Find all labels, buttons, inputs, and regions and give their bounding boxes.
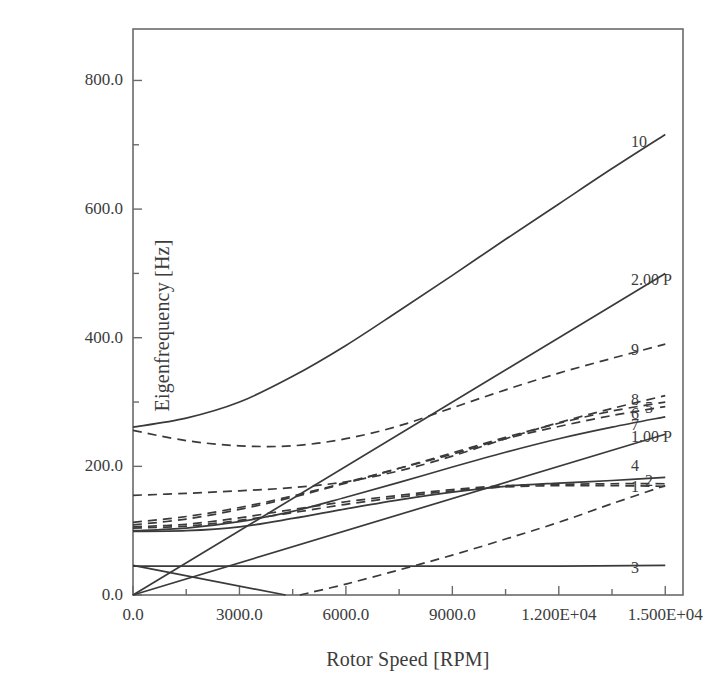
y-tick-label: 0.0 (31, 585, 123, 605)
x-tick-label: 0.0 (122, 605, 143, 625)
x-tick-label: 1.500E+04 (628, 605, 703, 625)
y-tick-label: 600.0 (31, 199, 123, 219)
x-tick-label: 1.200E+04 (521, 605, 596, 625)
curve-label-10: 10 (631, 133, 647, 151)
campbell-diagram-figure: 0.0200.0400.0600.0800.0 0.03000.06000.09… (0, 0, 723, 695)
x-axis-title: Rotor Speed [RPM] (133, 648, 683, 671)
curve-label-2: 2 (645, 472, 653, 490)
x-tick-label: 9000.0 (429, 605, 476, 625)
curve-label-4: 4 (631, 457, 639, 475)
curve-label-1: 1 (631, 478, 639, 496)
x-tick-label: 6000.0 (323, 605, 370, 625)
curve-label-5: 5 (645, 399, 653, 417)
curve-lines (133, 134, 665, 595)
y-tick-label: 200.0 (31, 456, 123, 476)
curve-rising-dashed-low (300, 486, 665, 595)
curve-3 (133, 565, 665, 566)
curve-5 (133, 407, 665, 523)
curve-label-2-00-p: 2.00 P (631, 271, 672, 289)
curve-2 (133, 484, 665, 527)
curve-10 (133, 134, 665, 427)
curve-6 (133, 402, 665, 525)
y-tick-label: 400.0 (31, 328, 123, 348)
tick-marks (133, 80, 665, 595)
curve-label-3: 3 (631, 559, 639, 577)
y-tick-label: 800.0 (31, 70, 123, 90)
y-axis-title: Eigenfrequency [Hz] (151, 46, 174, 606)
curve-label-1-00-p: 1.00 P (631, 428, 672, 446)
x-tick-label: 3000.0 (216, 605, 263, 625)
curve-label-9: 9 (631, 341, 639, 359)
curve-9 (133, 344, 665, 446)
curve-2-00-p (133, 273, 665, 595)
